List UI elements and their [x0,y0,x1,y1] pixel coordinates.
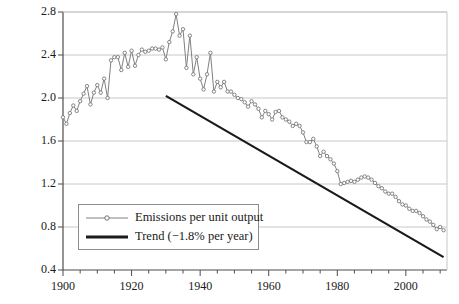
x-tick-label: 2000 [381,279,431,294]
y-tick-label: 2.4 [24,47,56,62]
y-tick-label: 2.0 [24,90,56,105]
legend-entry-trend: Trend (−1.8% per year) [85,227,253,246]
y-tick-label: 0.4 [24,262,56,277]
legend-label-trend: Trend (−1.8% per year) [135,229,253,244]
legend-entry-emissions: Emissions per unit output [85,208,263,227]
legend-label-emissions: Emissions per unit output [135,210,263,225]
y-tick-label: 1.2 [24,176,56,191]
y-tick-label: 0.8 [24,219,56,234]
legend-marker-trend [85,230,129,244]
x-tick-label: 1980 [312,279,362,294]
x-tick-label: 1940 [175,279,225,294]
legend-marker-emissions [85,211,129,225]
chart-figure: CO2 emissions/GDP (tons per 1000$ GDP, 2… [0,0,459,304]
x-tick-label: 1920 [107,279,157,294]
plot-canvas [0,0,459,304]
x-tick-label: 1960 [244,279,294,294]
x-tick-label: 1900 [38,279,88,294]
chart-legend: Emissions per unit output Trend (−1.8% p… [78,204,259,250]
y-tick-label: 2.8 [24,4,56,19]
figure-background [0,0,459,304]
y-tick-label: 1.6 [24,133,56,148]
